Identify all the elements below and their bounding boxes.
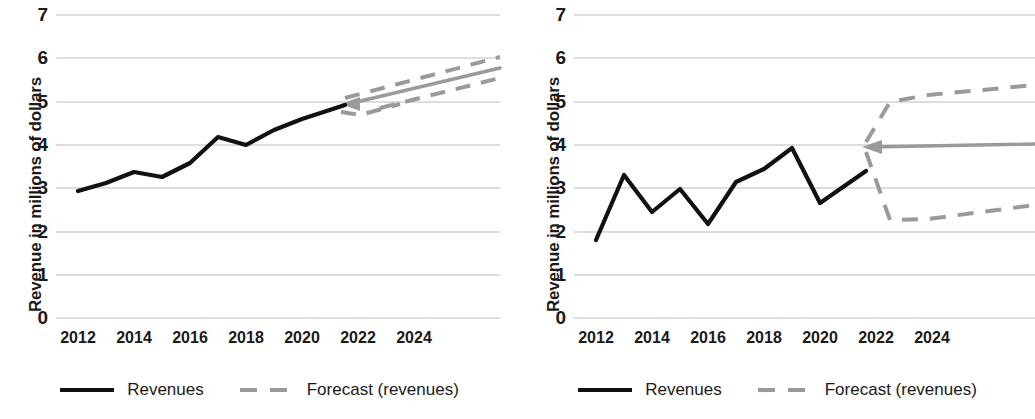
- legend-item-forecast-left: Forecast (revenues): [238, 380, 459, 400]
- x-tick-left-2016: 2016: [172, 329, 208, 347]
- solid-line-swatch-icon: [576, 384, 634, 396]
- legend-item-forecast-right: Forecast (revenues): [756, 380, 977, 400]
- legend-label-revenues-left: Revenues: [127, 380, 204, 400]
- dashed-line-swatch-icon: [238, 384, 296, 396]
- forecast-upper-bound-right: [866, 85, 1035, 142]
- forecast-arrowhead-right: [862, 140, 882, 154]
- x-tick-right-2014: 2014: [634, 329, 670, 347]
- legend-left: Revenues Forecast (revenues): [0, 380, 517, 400]
- chart-panel-left: Revenue in millions of dollars 7 6 5 4 3…: [0, 0, 517, 419]
- plot-area-left: [0, 0, 517, 360]
- x-tick-right-2018: 2018: [746, 329, 782, 347]
- forecast-lower-bound-right: [866, 152, 1035, 220]
- gridlines-left: [56, 15, 500, 318]
- x-tick-left-2014: 2014: [116, 329, 152, 347]
- dual-chart-figure: Revenue in millions of dollars 7 6 5 4 3…: [0, 0, 1035, 419]
- x-tick-left-2012: 2012: [60, 329, 96, 347]
- forecast-trend-line-left: [348, 68, 500, 104]
- revenue-line-right: [596, 148, 866, 240]
- dashed-line-swatch-icon: [756, 384, 814, 396]
- legend-label-forecast-right: Forecast (revenues): [825, 380, 977, 400]
- plot-area-right: [518, 0, 1035, 360]
- chart-panel-right: Revenue in millions of dollars 7 6 5 4 3…: [518, 0, 1035, 419]
- forecast-upper-bound-left: [345, 57, 500, 98]
- x-tick-left-2024: 2024: [396, 329, 432, 347]
- revenue-line-left: [78, 105, 345, 191]
- legend-item-revenues-right: Revenues: [576, 380, 722, 400]
- legend-label-forecast-left: Forecast (revenues): [307, 380, 459, 400]
- legend-right: Revenues Forecast (revenues): [518, 380, 1035, 400]
- x-tick-right-2012: 2012: [578, 329, 614, 347]
- x-tick-left-2018: 2018: [228, 329, 264, 347]
- x-tick-right-2016: 2016: [690, 329, 726, 347]
- x-tick-left-2022: 2022: [340, 329, 376, 347]
- gridlines-right: [574, 15, 1035, 318]
- solid-line-swatch-icon: [58, 384, 116, 396]
- legend-label-revenues-right: Revenues: [645, 380, 722, 400]
- x-tick-right-2022: 2022: [858, 329, 894, 347]
- legend-item-revenues-left: Revenues: [58, 380, 204, 400]
- x-tick-right-2024: 2024: [914, 329, 950, 347]
- x-tick-right-2020: 2020: [802, 329, 838, 347]
- x-tick-left-2020: 2020: [284, 329, 320, 347]
